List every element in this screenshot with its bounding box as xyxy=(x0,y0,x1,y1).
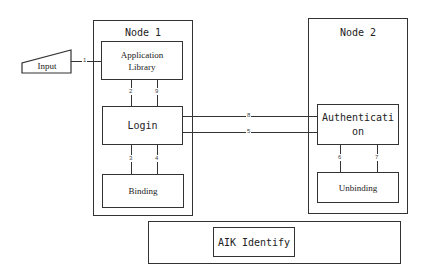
connector-label-9: 9 xyxy=(154,88,159,95)
authentication-line1: Authenticati xyxy=(322,111,394,125)
aik-identify-box: AIK Identify xyxy=(213,227,295,257)
connector-label-5: 5 xyxy=(246,128,251,135)
connector-label-1: 1 xyxy=(82,57,87,64)
application-library-box: Application Library xyxy=(101,41,183,80)
connector-label-8: 8 xyxy=(246,112,251,119)
connector-label-6: 6 xyxy=(337,154,342,161)
binding-box: Binding xyxy=(102,174,184,208)
connector-label-2: 2 xyxy=(128,88,133,95)
authentication-box: Authenticati on xyxy=(317,104,399,145)
binding-label: Binding xyxy=(128,186,157,196)
unbinding-label: Unbinding xyxy=(339,183,378,193)
unbinding-box: Unbinding xyxy=(317,172,399,203)
login-label: Login xyxy=(127,120,157,131)
connector-label-7: 7 xyxy=(374,154,379,161)
application-library-line1: Application xyxy=(121,49,164,61)
login-box: Login xyxy=(102,106,183,145)
application-library-line2: Library xyxy=(129,61,156,73)
authentication-line2: on xyxy=(352,125,364,139)
connector-label-3: 3 xyxy=(128,155,133,162)
node-1-title: Node 1 xyxy=(93,27,193,38)
connector-label-4: 4 xyxy=(154,155,159,162)
node-2-title: Node 2 xyxy=(308,27,408,38)
aik-identify-label: AIK Identify xyxy=(218,237,290,248)
input-label: Input xyxy=(24,61,70,71)
